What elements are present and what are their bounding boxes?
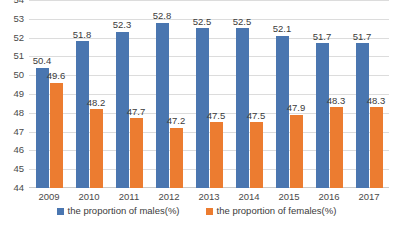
y-axis-tick-label: 51 xyxy=(13,52,24,62)
bar-value-label: 52.1 xyxy=(273,24,292,34)
bar-females-2013[interactable]: 47.5 xyxy=(210,122,223,188)
bar-group: 52.547.5 xyxy=(189,0,229,188)
bar-group: 52.547.5 xyxy=(229,0,269,188)
bar-group: 51.848.2 xyxy=(69,0,109,188)
bar-males-2014[interactable]: 52.5 xyxy=(236,28,249,188)
bar-females-2009[interactable]: 49.6 xyxy=(50,83,63,188)
y-axis-tick-label: 46 xyxy=(13,146,24,156)
bar-group: 52.147.9 xyxy=(269,0,309,188)
bar-value-label: 52.5 xyxy=(193,17,212,27)
y-axis-tick-label: 44 xyxy=(13,183,24,193)
bar-value-label: 47.5 xyxy=(207,111,226,121)
legend-item-females[interactable]: the proportion of females(%) xyxy=(206,206,337,216)
bar-females-2011[interactable]: 47.7 xyxy=(130,118,143,188)
y-axis-tick-label: 52 xyxy=(13,33,24,43)
bar-group: 51.748.3 xyxy=(349,0,389,188)
bar-group: 50.449.6 xyxy=(29,0,69,188)
bar-value-label: 48.3 xyxy=(327,96,346,106)
bar-value-label: 48.2 xyxy=(87,98,106,108)
y-axis-tick-label: 53 xyxy=(13,14,24,24)
bar-females-2016[interactable]: 48.3 xyxy=(330,107,343,188)
legend-swatch-icon xyxy=(57,208,64,215)
bars-layer: 50.449.651.848.252.347.752.847.252.547.5… xyxy=(29,0,389,188)
y-axis-tick-label: 48 xyxy=(13,108,24,118)
chart-legend: the proportion of males(%)the proportion… xyxy=(0,202,393,220)
y-axis: 5453525150494847464544 xyxy=(0,0,28,188)
plot-area: 50.449.651.848.252.347.752.847.252.547.5… xyxy=(29,0,389,188)
bar-males-2013[interactable]: 52.5 xyxy=(196,28,209,188)
bar-value-label: 51.7 xyxy=(353,32,372,42)
bar-value-label: 52.3 xyxy=(113,20,132,30)
bar-value-label: 49.6 xyxy=(47,71,66,81)
bar-value-label: 48.3 xyxy=(367,96,386,106)
bar-females-2014[interactable]: 47.5 xyxy=(250,122,263,188)
legend-item-males[interactable]: the proportion of males(%) xyxy=(57,206,180,216)
plot-wrapper: 5453525150494847464544 50.449.651.848.25… xyxy=(0,0,393,188)
bar-value-label: 51.8 xyxy=(73,30,92,40)
bar-value-label: 47.2 xyxy=(167,116,186,126)
bar-males-2016[interactable]: 51.7 xyxy=(316,43,329,188)
legend-label: the proportion of females(%) xyxy=(217,206,337,216)
bar-value-label: 50.4 xyxy=(33,56,52,66)
y-axis-tick-label: 50 xyxy=(13,70,24,80)
bar-males-2010[interactable]: 51.8 xyxy=(76,41,89,188)
y-axis-tick-label: 49 xyxy=(13,89,24,99)
y-axis-tick-label: 45 xyxy=(13,164,24,174)
bar-males-2017[interactable]: 51.7 xyxy=(356,43,369,188)
bar-females-2010[interactable]: 48.2 xyxy=(90,109,103,188)
bar-group: 51.748.3 xyxy=(309,0,349,188)
bar-value-label: 52.5 xyxy=(233,17,252,27)
bar-group: 52.347.7 xyxy=(109,0,149,188)
bar-males-2012[interactable]: 52.8 xyxy=(156,23,169,188)
legend-label: the proportion of males(%) xyxy=(68,206,180,216)
bar-value-label: 47.9 xyxy=(287,103,306,113)
bar-value-label: 47.7 xyxy=(127,107,146,117)
bar-females-2017[interactable]: 48.3 xyxy=(370,107,383,188)
legend-swatch-icon xyxy=(206,208,213,215)
bar-males-2009[interactable]: 50.4 xyxy=(36,68,49,188)
bar-chart: 5453525150494847464544 50.449.651.848.25… xyxy=(0,0,393,226)
bar-females-2012[interactable]: 47.2 xyxy=(170,128,183,188)
bar-value-label: 47.5 xyxy=(247,111,266,121)
y-axis-tick-label: 54 xyxy=(13,0,24,5)
bar-group: 52.847.2 xyxy=(149,0,189,188)
bar-females-2015[interactable]: 47.9 xyxy=(290,115,303,188)
bar-value-label: 51.7 xyxy=(313,32,332,42)
bar-value-label: 52.8 xyxy=(153,11,172,21)
y-axis-tick-label: 47 xyxy=(13,127,24,137)
